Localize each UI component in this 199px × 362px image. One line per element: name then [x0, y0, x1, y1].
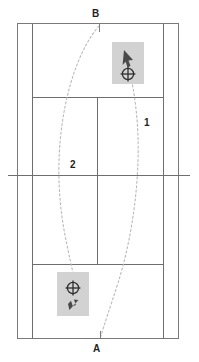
endpoint-ticks	[100, 23, 101, 339]
trajectory-curve-2	[59, 26, 99, 277]
lower-player-marker[interactable]	[57, 272, 89, 316]
endpoint-label-a: A	[93, 344, 100, 354]
trajectory-label-1: 1	[144, 118, 150, 128]
trajectory-curve-1	[101, 72, 138, 336]
endpoint-label-b: B	[92, 9, 99, 19]
court-diagram-canvas	[0, 0, 199, 362]
trajectory-label-2: 2	[70, 160, 76, 170]
upper-player-marker[interactable]	[112, 42, 144, 84]
court-trajectory-diagram: B A 1 2	[0, 0, 199, 362]
court-lines	[8, 24, 190, 339]
